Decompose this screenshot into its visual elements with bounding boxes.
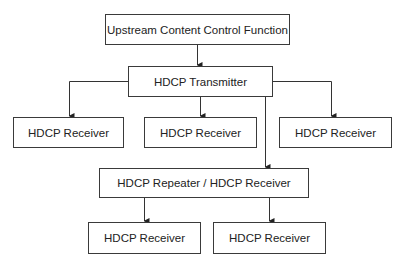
node-upstream-content-control: Upstream Content Control Function: [105, 14, 290, 45]
node-hdcp-receiver-1: HDCP Receiver: [13, 117, 124, 148]
node-hdcp-receiver-5: HDCP Receiver: [213, 222, 326, 254]
node-hdcp-receiver-3: HDCP Receiver: [279, 117, 392, 148]
edge-transmitter-receiver-1: [70, 82, 129, 117]
edge-transmitter-receiver-3: [272, 82, 332, 117]
node-hdcp-transmitter: HDCP Transmitter: [128, 66, 273, 97]
node-hdcp-receiver-2: HDCP Receiver: [144, 117, 257, 148]
node-hdcp-receiver-4: HDCP Receiver: [88, 222, 201, 254]
node-hdcp-repeater: HDCP Repeater / HDCP Receiver: [99, 168, 309, 198]
